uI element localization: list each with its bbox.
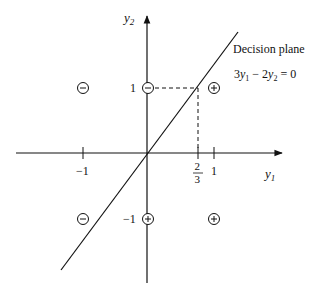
svg-text:3: 3 <box>195 173 201 185</box>
point-minus-upper-left <box>78 83 89 94</box>
point-minus-lower-left <box>78 214 89 225</box>
decision-plane-diagram: y1 y2 −1 1 2 3 1 −1 Decision plane 3y1 −… <box>0 0 312 291</box>
decision-plane-title: Decision plane <box>233 42 305 56</box>
x-axis-label: y1 <box>263 166 275 183</box>
point-plus-upper-right <box>209 83 220 94</box>
svg-text:2: 2 <box>195 160 201 172</box>
x-tick-label-two-thirds: 2 3 <box>193 160 203 185</box>
y-axis-label: y2 <box>122 10 135 27</box>
x-tick-label-1: 1 <box>211 164 217 178</box>
point-plus-lower-right <box>209 214 220 225</box>
decision-line <box>61 32 238 270</box>
point-minus-upper-center <box>143 83 154 94</box>
y-tick-label-1: 1 <box>130 81 136 95</box>
x-tick-label-minus-1: −1 <box>76 164 89 178</box>
point-plus-lower-center <box>143 214 154 225</box>
y-tick-label-minus-1: −1 <box>123 212 136 226</box>
decision-plane-equation: 3y1 − 2y2 = 0 <box>234 67 296 83</box>
